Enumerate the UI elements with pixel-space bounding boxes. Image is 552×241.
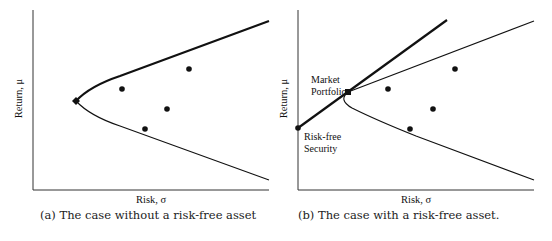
asset-dot	[142, 126, 148, 132]
panel-with-risk-free: Return, μ Market Portfolio Risk-free Sec…	[276, 0, 552, 241]
risk-free-security-label: Risk-free Security	[304, 131, 341, 155]
x-axis-label: Risk, σ	[401, 194, 431, 205]
frontier-lower	[76, 101, 269, 180]
risk-free-label-line-2: Security	[304, 143, 341, 155]
panel-without-risk-free: Return, μ Risk, σ (a) The case without a…	[0, 0, 276, 241]
x-axis-label: Risk, σ	[136, 194, 166, 205]
efficient-frontier-upper	[76, 21, 269, 101]
asset-dot	[186, 66, 192, 72]
asset-dot	[452, 66, 458, 72]
market-label-line-2: Portfolio	[311, 86, 347, 98]
y-axis-label: Return, μ	[13, 71, 24, 127]
y-axis-label: Return, μ	[278, 71, 289, 127]
asset-dot	[430, 106, 436, 112]
risk-free-dot	[295, 125, 301, 131]
asset-dot	[164, 106, 170, 112]
frontier-upper	[348, 21, 534, 92]
asset-dot	[407, 126, 413, 132]
frontier-lower	[344, 92, 534, 180]
caption-a: (a) The case without a risk-free asset	[40, 208, 256, 222]
risk-free-label-line-1: Risk-free	[304, 131, 341, 143]
asset-dot	[119, 86, 125, 92]
market-portfolio-label: Market Portfolio	[311, 74, 347, 98]
caption-b: (b) The case with a risk-free asset.	[298, 208, 499, 222]
asset-dot	[385, 86, 391, 92]
market-label-line-1: Market	[311, 74, 347, 86]
